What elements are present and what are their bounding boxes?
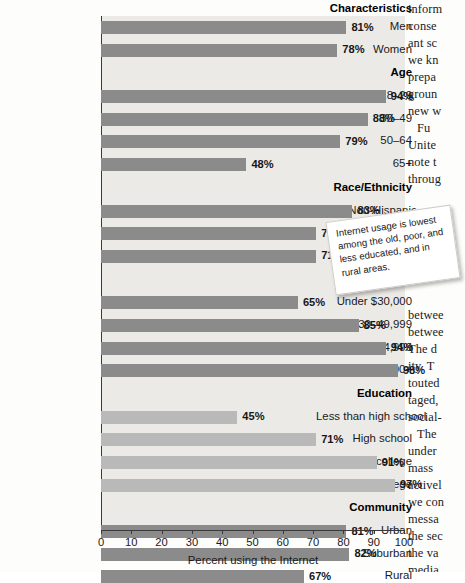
book-text-line: The d (408, 341, 465, 358)
bar-category-label: Less than high school (316, 410, 412, 422)
bar (101, 296, 298, 309)
book-text-line: we con (408, 494, 465, 511)
chart-header-characteristics: Characteristics (316, 2, 412, 14)
book-text-line: Fu (408, 120, 465, 137)
book-text-line: the sec (408, 528, 465, 545)
x-axis-tick (374, 530, 375, 534)
x-axis-tick-label: 0 (98, 536, 104, 548)
chart-group-label-education: Education (316, 387, 412, 399)
book-text-line (408, 256, 465, 273)
bar (101, 456, 377, 469)
bar (101, 21, 346, 34)
x-axis-tick (162, 530, 163, 534)
bar (101, 113, 368, 126)
book-text-line: taged, (408, 392, 465, 409)
bar-value-label: 88% (373, 112, 395, 124)
bar (101, 411, 237, 424)
book-text-line: under (408, 443, 465, 460)
book-text-line: betwee (408, 307, 465, 324)
book-text-line: activel (408, 477, 465, 494)
book-text-line: Unite (408, 137, 465, 154)
bar (101, 158, 246, 171)
book-text-line: ity. T (408, 358, 465, 375)
book-body-text: informconseant scwe knprepagrounnew wFuU… (408, 0, 465, 572)
bar (101, 90, 386, 103)
x-axis-tick (222, 530, 223, 534)
x-axis-tick-label: 20 (155, 536, 167, 548)
chart-group-label-race-ethnicity: Race/Ethnicity (316, 181, 412, 193)
bar-value-label: 85% (364, 319, 386, 331)
book-text-line: note t (408, 154, 465, 171)
bar-value-label: 67% (309, 570, 331, 582)
book-text-line: betwee (408, 324, 465, 341)
book-text-line (408, 239, 465, 256)
x-axis-tick-label: 90 (367, 536, 379, 548)
book-text-line: The (408, 426, 465, 443)
chart-group-label-age: Age (316, 66, 412, 78)
book-text-line: new w (408, 103, 465, 120)
book-text-line: ant sc (408, 35, 465, 52)
book-text-line: conse (408, 18, 465, 35)
bar-value-label: 48% (251, 158, 273, 170)
x-axis-tick-label: 10 (125, 536, 137, 548)
x-axis-title: Percent using the Internet (101, 554, 405, 566)
x-axis-tick (313, 530, 314, 534)
x-axis-tick (101, 530, 102, 534)
bar-value-label: 45% (242, 410, 264, 422)
book-text-line: throug (408, 171, 465, 188)
book-text-line: inform (408, 1, 465, 18)
bar-value-label: 78% (342, 43, 364, 55)
bar (101, 250, 316, 263)
book-text-line (408, 222, 465, 239)
book-text-line: messa (408, 511, 465, 528)
x-axis-tick-label: 40 (216, 536, 228, 548)
bar-value-label: 81% (351, 21, 373, 33)
book-text-line: groun (408, 86, 465, 103)
book-text-line: media (408, 562, 465, 572)
chart-group-label-community: Community (316, 501, 412, 513)
x-axis-tick-label: 80 (337, 536, 349, 548)
x-axis-tick (253, 530, 254, 534)
book-text-line (408, 188, 465, 205)
book-text-line: mass (408, 460, 465, 477)
x-axis-tick (404, 530, 405, 534)
bar (101, 342, 386, 355)
book-text-line: we kn (408, 52, 465, 69)
x-axis-tick-label: 70 (307, 536, 319, 548)
bar (101, 433, 316, 446)
bar (101, 135, 340, 148)
x-axis-tick (192, 530, 193, 534)
bar-value-label: 79% (345, 135, 367, 147)
x-axis-tick (343, 530, 344, 534)
bar-category-label: 65+ (316, 157, 412, 169)
x-axis-tick-label: 60 (277, 536, 289, 548)
book-text-line (408, 290, 465, 307)
book-text-line: touted (408, 375, 465, 392)
bar-category-label: Under $30,000 (316, 295, 412, 307)
bar (101, 319, 359, 332)
book-text-line: prepa (408, 69, 465, 86)
x-axis-tick-label: 50 (246, 536, 258, 548)
bar-value-label: 91% (382, 456, 404, 468)
book-text-line: social- (408, 409, 465, 426)
bar-value-label: 65% (303, 296, 325, 308)
bar (101, 205, 352, 218)
book-text-line (408, 205, 465, 222)
book-text-line: the va (408, 545, 465, 562)
bar-value-label: 71% (321, 433, 343, 445)
x-axis-tick-label: 30 (186, 536, 198, 548)
bar (101, 227, 316, 240)
book-text-line (408, 273, 465, 290)
x-axis-tick (131, 530, 132, 534)
bar (101, 364, 398, 377)
bar (101, 570, 304, 583)
bar (101, 44, 337, 57)
x-axis-tick (283, 530, 284, 534)
bar (101, 479, 395, 492)
